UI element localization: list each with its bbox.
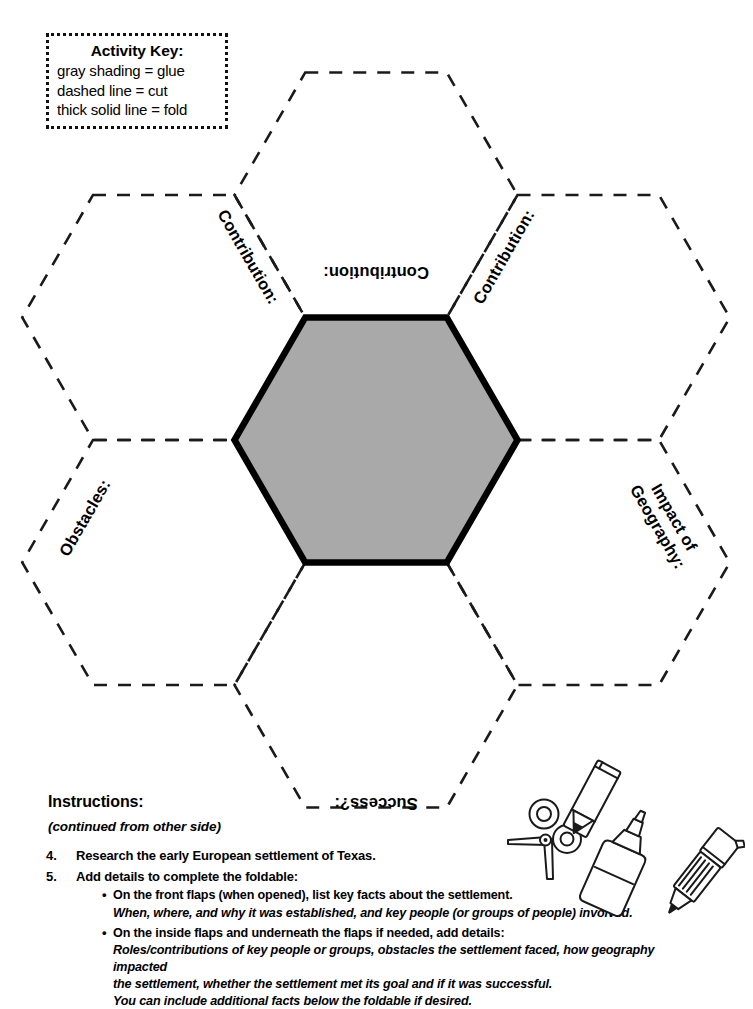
sub-item-text: On the inside flaps and underneath the f…: [113, 925, 504, 942]
supply-icons-group: [495, 752, 745, 942]
crayon-icon: [562, 760, 621, 839]
glue-center-hexagon: [235, 317, 518, 562]
sub-item-text: On the front flaps (when opened), list k…: [113, 887, 513, 904]
bullet-marker: •: [102, 887, 113, 904]
instructions-subheading: (continued from other side): [48, 819, 221, 834]
instructions-heading: Instructions:: [48, 793, 144, 811]
activity-key-title: Activity Key:: [57, 41, 217, 60]
activity-key-box: Activity Key: gray shading = glue dashed…: [46, 33, 228, 129]
activity-key-line-fold: thick solid line = fold: [57, 100, 217, 119]
flap-label-top: Contribution:: [323, 263, 429, 280]
activity-key-line-cut: dashed line = cut: [57, 81, 217, 100]
step-number: 4.: [46, 848, 76, 863]
activity-key-line-glue: gray shading = glue: [57, 61, 217, 80]
sub-item-italic-line: You can include additional facts below t…: [113, 993, 706, 1009]
marker-icon: [658, 823, 745, 924]
flap-outline-bottom: [235, 562, 518, 807]
sub-item-italic-line: the settlement, whether the settlement m…: [113, 976, 706, 993]
sub-item-italic-line: Roles/contributions of key people or gro…: [113, 942, 706, 976]
bullet-marker: •: [102, 925, 113, 942]
step-number: 5.: [46, 869, 76, 1009]
flap-label-bottom: Success?:: [334, 794, 417, 811]
step-text: Research the early European settlement o…: [76, 848, 376, 863]
